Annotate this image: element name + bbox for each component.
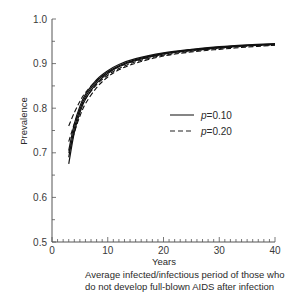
y-tick-label: 0.8	[33, 103, 47, 114]
series-line	[69, 44, 275, 157]
y-tick-label: 1.0	[33, 14, 47, 25]
y-axis: 0.50.60.70.80.91.0	[33, 14, 56, 248]
y-tick-label: 0.5	[33, 237, 47, 248]
y-tick-label: 0.6	[33, 192, 47, 203]
caption-line-2: do not develop full-blown AIDS after inf…	[85, 281, 300, 293]
legend-label: p=0.10	[200, 110, 232, 121]
series-line	[69, 45, 275, 142]
plot-lines	[69, 44, 275, 164]
x-axis-title: Years	[152, 256, 176, 267]
legend: p=0.10p=0.20	[170, 110, 232, 137]
legend-label: p=0.20	[200, 126, 232, 137]
series-line	[69, 45, 275, 152]
caption-line-1: Average infected/infectious period of th…	[85, 269, 300, 281]
x-tick-label: 20	[158, 245, 170, 256]
y-tick-label: 0.9	[33, 58, 47, 69]
x-tick-label: 40	[269, 245, 281, 256]
chart: 0.50.60.70.80.91.0 010203040 p=0.10p=0.2…	[0, 0, 300, 308]
x-tick-label: 10	[102, 245, 114, 256]
x-tick-label: 0	[49, 245, 55, 256]
x-axis: 010203040	[49, 237, 281, 256]
series-line	[69, 44, 275, 151]
x-axis-caption: Average infected/infectious period of th…	[85, 269, 300, 293]
series-line	[69, 44, 275, 126]
y-axis-title: Prevalence	[18, 97, 29, 145]
series-line	[69, 44, 275, 164]
y-tick-label: 0.7	[33, 147, 47, 158]
x-tick-label: 30	[214, 245, 226, 256]
